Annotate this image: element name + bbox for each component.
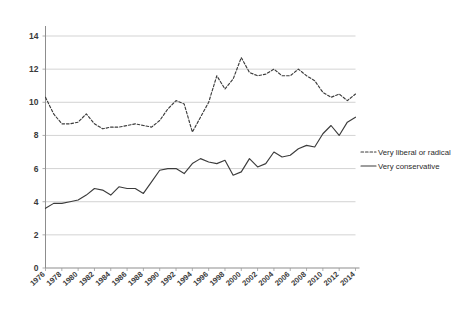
x-tick-label: 1982 (77, 270, 96, 288)
x-tick-label: 2014 (338, 269, 357, 288)
chart-legend: Very liberal or radicalVery conservative (361, 148, 451, 171)
x-tick-label: 1986 (110, 270, 129, 288)
line-chart: 02468101214 1976197819801982198419861988… (0, 0, 467, 311)
y-tick-label: 8 (34, 130, 39, 140)
x-axis: 1976197819801982198419861988199019921994… (28, 268, 359, 288)
x-tick-label: 1988 (126, 270, 145, 288)
y-axis: 02468101214 (29, 26, 45, 273)
y-tick-label: 12 (29, 64, 39, 74)
x-tick-label: 2006 (273, 270, 292, 288)
chart-canvas: 02468101214 1976197819801982198419861988… (0, 0, 467, 311)
x-tick-label: 1984 (94, 269, 113, 288)
legend-label-2: Very conservative (378, 162, 440, 171)
x-tick-label: 1992 (159, 270, 178, 288)
series-line-2 (46, 117, 356, 208)
x-tick-label: 1994 (175, 269, 194, 288)
x-tick-label: 2002 (240, 270, 259, 288)
y-tick-label: 4 (34, 197, 39, 207)
x-tick-label: 1998 (208, 270, 227, 288)
y-tick-label: 10 (29, 97, 39, 107)
x-tick-label: 2000 (224, 270, 243, 288)
gridlines (46, 36, 356, 235)
data-series (46, 58, 356, 209)
legend-label-1: Very liberal or radical (378, 148, 451, 157)
x-tick-label: 2012 (322, 270, 341, 288)
x-tick-label: 1990 (142, 270, 161, 288)
x-tick-label: 2008 (289, 270, 308, 288)
y-tick-label: 6 (34, 164, 39, 174)
x-tick-label: 1996 (191, 270, 210, 288)
x-tick-label: 1980 (61, 270, 80, 288)
y-tick-label: 14 (29, 31, 39, 41)
x-tick-label: 1978 (45, 270, 64, 288)
y-tick-label: 2 (34, 230, 39, 240)
x-tick-label: 1976 (28, 270, 47, 288)
series-line-1 (46, 58, 356, 133)
x-tick-label: 2004 (257, 269, 276, 288)
x-tick-label: 2010 (306, 270, 325, 288)
